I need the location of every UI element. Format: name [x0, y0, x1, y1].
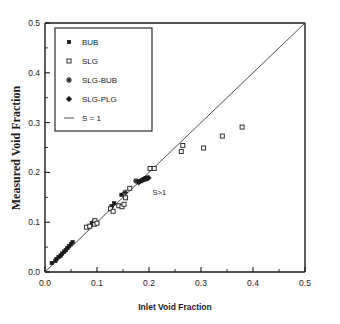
marker-point	[71, 240, 74, 243]
legend: BUBSLGSLG-BUBSLG-PLGS = 1	[55, 28, 152, 131]
marker-point	[152, 166, 156, 170]
scatter-chart: 0.00.10.20.30.40.5 0.00.10.20.30.40.5 S<…	[0, 0, 340, 324]
legend-label-slg-plg: SLG-PLG	[82, 95, 117, 104]
marker-point	[128, 186, 132, 190]
marker-point	[124, 196, 128, 200]
y-tick-group: 0.00.10.20.30.40.5	[28, 18, 50, 277]
x-tick-label: 0.5	[299, 278, 311, 288]
marker-legend-bub	[67, 40, 70, 43]
series-slg	[85, 125, 244, 229]
x-axis-title: Inlet Void Fraction	[138, 302, 212, 312]
x-tick-label: 0.0	[39, 278, 51, 288]
marker-point	[111, 209, 115, 213]
marker-point	[95, 221, 99, 225]
y-tick-label: 0.0	[28, 267, 40, 277]
y-tick-label: 0.5	[28, 18, 40, 28]
y-tick-label: 0.2	[28, 167, 40, 177]
legend-label-s = 1: S = 1	[82, 114, 101, 123]
marker-point	[220, 134, 224, 138]
marker-point	[148, 166, 152, 170]
marker-point	[88, 224, 92, 228]
annotation-S1: S>1	[153, 188, 167, 197]
x-tick-label: 0.1	[91, 278, 103, 288]
marker-point	[181, 144, 185, 148]
marker-point	[122, 189, 128, 195]
chart-svg: 0.00.10.20.30.40.5 0.00.10.20.30.40.5 S<…	[0, 0, 340, 324]
marker-legend-slg	[67, 59, 71, 63]
x-tick-label: 0.4	[247, 278, 259, 288]
marker-point	[240, 125, 244, 129]
data-series-group	[50, 125, 244, 265]
marker-legend-slg-bub	[66, 77, 72, 83]
x-tick-label: 0.2	[143, 278, 155, 288]
x-tick-label: 0.3	[195, 278, 207, 288]
y-tick-label: 0.1	[28, 217, 40, 227]
marker-point	[120, 193, 123, 196]
plot-annotations: S<1S>1	[77, 123, 166, 197]
x-tick-group: 0.00.10.20.30.40.5	[39, 267, 311, 288]
legend-label-slg: SLG	[82, 57, 98, 66]
marker-point	[112, 202, 115, 205]
legend-label-slg-bub: SLG-BUB	[82, 76, 117, 85]
marker-point	[122, 202, 126, 206]
y-tick-label: 0.4	[28, 68, 40, 78]
marker-point	[179, 149, 183, 153]
legend-label-bub: BUB	[82, 38, 98, 47]
y-axis-title: Measured Void Fraction	[9, 85, 23, 210]
y-tick-label: 0.3	[28, 118, 40, 128]
marker-point	[50, 261, 53, 264]
marker-point	[202, 146, 206, 150]
